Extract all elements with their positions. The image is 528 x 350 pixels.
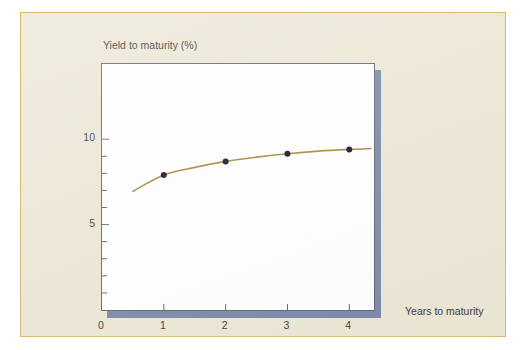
x-tick-label: 1 [155, 319, 171, 331]
data-point [161, 172, 167, 178]
data-point [284, 151, 290, 157]
plot-area [101, 63, 375, 311]
y-axis-title: Yield to maturity (%) [103, 39, 197, 51]
data-point [346, 146, 352, 152]
y-axis-ticks [102, 139, 109, 293]
x-tick-label: 3 [278, 319, 294, 331]
x-tick-label: 2 [217, 319, 233, 331]
x-tick-label: 0 [93, 319, 109, 331]
yield-curve-line [133, 149, 371, 192]
y-tick-label: 5 [69, 217, 95, 229]
x-axis-title: Years to maturity [405, 305, 483, 317]
figure-frame: Yield to maturity (%) 105 01234 Years to… [20, 12, 506, 337]
x-axis-ticks [164, 304, 349, 310]
x-tick-label: 4 [340, 319, 356, 331]
chart-canvas [102, 64, 374, 310]
y-tick-label: 10 [69, 131, 95, 143]
data-point [223, 158, 229, 164]
